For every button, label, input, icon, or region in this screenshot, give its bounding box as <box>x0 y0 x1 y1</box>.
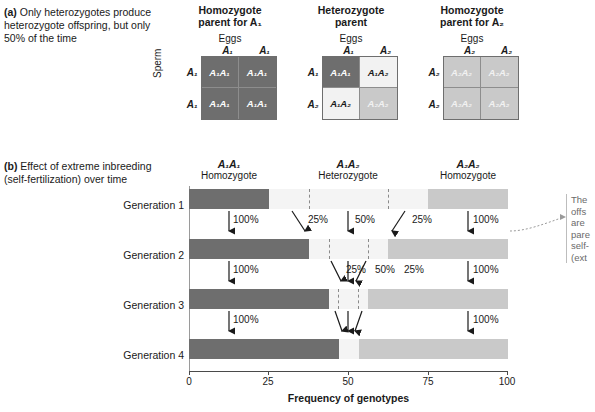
genotype-symbol: A₁A₂ <box>308 158 388 170</box>
genotype-symbol: A₁A₁ <box>189 158 269 170</box>
egg-gamete-headers: A₂ A₂ <box>451 45 525 56</box>
sperm-gamete: A₂ <box>428 89 439 120</box>
bar-segment-a2a2 <box>388 239 508 259</box>
eggs-axis-label: Eggs <box>420 33 524 44</box>
generation-bar-2 <box>189 239 508 259</box>
side-note-line: self- <box>571 240 595 252</box>
bar-segment-a1a1 <box>189 289 329 309</box>
sperm-gamete: A₂ <box>428 57 439 88</box>
genotype-header-a1a1: A₁A₁ Homozygote <box>189 158 269 182</box>
punnett-grid-wrapper: A₂ A₂ A₂A₂ A₂A₂ A₂A₂ A₂A₂ <box>420 56 524 120</box>
punnett-grid-wrapper: A₁ A₂ A₁A₁ A₁A₂ A₁A₂ A₂A₂ <box>299 56 403 120</box>
punnett-cell: A₂A₂ <box>360 88 397 119</box>
side-note-line: are <box>571 217 595 229</box>
punnett-grid: A₁A₁ A₁A₁ A₁A₁ A₁A₁ <box>201 56 277 120</box>
punnett-grid: A₁A₁ A₁A₂ A₁A₂ A₂A₂ <box>322 56 398 120</box>
sperm-gamete-headers: A₁ A₂ <box>305 56 322 120</box>
genotype-header-a1a2: A₁A₂ Heterozygote <box>308 158 388 182</box>
panel-a-label: (a) <box>4 6 17 18</box>
x-tick-label: 25 <box>253 376 283 387</box>
punnett-cell: A₁A₁ <box>239 88 276 119</box>
egg-gamete: A₁ <box>209 45 246 56</box>
eggs-axis-label: Eggs <box>178 33 282 44</box>
x-tick <box>268 371 269 375</box>
side-note-line: offs <box>571 206 595 218</box>
punnett-cell: A₁A₂ <box>323 88 360 119</box>
x-tick <box>189 371 190 375</box>
cross-title-line1: Homozygote <box>178 4 282 16</box>
cross-title-line1: Heterozygote <box>299 4 403 16</box>
bar-segment-a2a2 <box>359 339 509 359</box>
generation-label-1: Generation 1 <box>104 199 184 211</box>
sperm-gamete: A₁ <box>187 57 198 88</box>
transition-percent: 25% <box>412 214 432 225</box>
punnett-grid: A₂A₂ A₂A₂ A₂A₂ A₂A₂ <box>443 56 519 120</box>
x-tick <box>348 371 349 375</box>
x-tick <box>507 371 508 375</box>
transition-percent: 25% <box>308 214 328 225</box>
cross-title-line1: Homozygote <box>420 4 524 16</box>
sperm-gamete: A₁ <box>187 89 198 120</box>
x-tick-label: 50 <box>333 376 363 387</box>
generation-label-2: Generation 2 <box>104 249 184 261</box>
punnett-cell: A₁A₁ <box>239 57 276 88</box>
egg-gamete-headers: A₁ A₂ <box>330 45 404 56</box>
genotype-symbol: A₂A₂ <box>428 158 508 170</box>
generation-label-4: Generation 4 <box>104 349 184 361</box>
x-tick <box>428 371 429 375</box>
transition-percent: 100% <box>473 314 499 325</box>
divider-dashed <box>309 189 310 209</box>
side-note-line: The <box>571 194 595 206</box>
transition-percent: 25% <box>404 264 424 275</box>
egg-gamete: A₂ <box>488 45 525 56</box>
punnett-cell: A₂A₂ <box>481 88 518 119</box>
divider-dashed <box>388 189 389 209</box>
x-tick-label: 0 <box>174 376 204 387</box>
sperm-gamete-headers: A₁ A₁ <box>184 56 201 120</box>
punnett-square-homozygote-a2: Homozygote parent for A₂ Eggs A₂ A₂ A₂ A… <box>420 4 524 120</box>
egg-gamete: A₂ <box>451 45 488 56</box>
side-note-line: (ext <box>571 252 595 264</box>
generation-bar-1 <box>189 189 508 209</box>
sperm-gamete-headers: A₂ A₂ <box>426 56 443 120</box>
bar-segment-a1a2 <box>269 189 429 209</box>
eggs-axis-label: Eggs <box>299 33 403 44</box>
egg-gamete: A₁ <box>330 45 367 56</box>
punnett-cell: A₁A₁ <box>202 57 239 88</box>
genotype-header-a2a2: A₂A₂ Homozygote <box>428 158 508 182</box>
bar-segment-a1a2 <box>309 239 389 259</box>
sperm-gamete: A₂ <box>307 89 318 120</box>
generation-bar-3 <box>189 289 508 309</box>
punnett-cell: A₁A₂ <box>360 57 397 88</box>
x-tick-label: 75 <box>413 376 443 387</box>
egg-gamete: A₂ <box>367 45 404 56</box>
punnett-cell: A₁A₁ <box>323 57 360 88</box>
punnett-cell: A₁A₁ <box>202 88 239 119</box>
sperm-axis-label: Sperm <box>152 49 163 78</box>
zygosity-label: Homozygote <box>428 170 508 182</box>
divider-dashed <box>368 239 369 259</box>
divider-dashed <box>358 289 359 309</box>
transition-percent: 100% <box>233 264 259 275</box>
cross-title-line2: parent for A₂ <box>420 16 524 28</box>
cross-title-line2: parent <box>299 16 403 28</box>
zygosity-label: Homozygote <box>189 170 269 182</box>
side-note: The offs are pare self- (ext <box>566 194 595 263</box>
punnett-grid-wrapper: A₁ A₁ A₁A₁ A₁A₁ A₁A₁ A₁A₁ <box>178 56 282 120</box>
punnett-square-heterozygote: Heterozygote parent Eggs A₁ A₂ A₁ A₂ A₁A… <box>299 4 403 120</box>
transition-percent: 50% <box>375 264 395 275</box>
side-note-leader-line <box>508 212 568 234</box>
bar-segment-a1a2 <box>329 289 369 309</box>
punnett-square-homozygote-a1: Homozygote parent for A₁ Eggs A₁ A₁ A₁ A… <box>178 4 282 120</box>
bar-segment-a2a2 <box>428 189 508 209</box>
x-axis-title: Frequency of genotypes <box>189 392 508 404</box>
transition-percent: 25% <box>346 264 366 275</box>
cross-title-line2: parent for A₁ <box>178 16 282 28</box>
punnett-cell: A₂A₂ <box>444 57 481 88</box>
bar-segment-a2a2 <box>368 289 508 309</box>
transition-percent: 50% <box>355 214 375 225</box>
divider-dashed <box>329 239 330 259</box>
bar-segment-a1a1 <box>189 189 269 209</box>
egg-gamete-headers: A₁ A₁ <box>209 45 283 56</box>
bar-segment-a1a1 <box>189 339 339 359</box>
